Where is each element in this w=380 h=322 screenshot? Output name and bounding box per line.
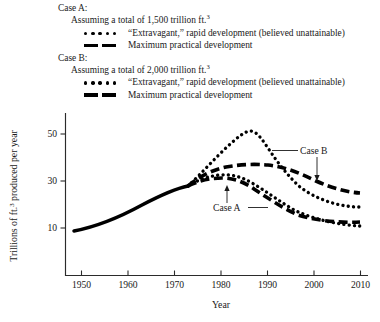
- axis-lines: [66, 113, 369, 276]
- annotation-case-b-arrowhead: [314, 175, 319, 181]
- annotation-case-b-label: Case B: [300, 145, 327, 156]
- x-tick-label-1970: 1970: [165, 279, 184, 290]
- y-tick-label-10: 10: [47, 222, 57, 233]
- chart-plot: 10 30 50 1950 1960 1970 1980 1990 2000 2…: [0, 0, 380, 322]
- x-axis-ticks: [82, 271, 361, 276]
- x-tick-label-2010: 2010: [351, 279, 370, 290]
- x-tick-label-1990: 1990: [258, 279, 277, 290]
- annotation-case-a-arrowhead: [224, 185, 229, 191]
- x-tick-label-1960: 1960: [118, 279, 137, 290]
- curve-case-a-maximum: [188, 178, 360, 222]
- x-tick-label-1950: 1950: [72, 279, 91, 290]
- curve-case-a-extravagant: [188, 175, 360, 226]
- y-axis-title-main: Trillions of ft.: [8, 207, 19, 262]
- curve-historical: [74, 186, 188, 231]
- y-tick-label-50: 50: [47, 128, 57, 139]
- figure-container: Case A: Assuming a total of 1,500 trilli…: [0, 0, 380, 322]
- curve-case-b-maximum: [188, 164, 360, 193]
- x-axis-title: Year: [212, 299, 231, 310]
- x-tick-label-2000: 2000: [304, 279, 323, 290]
- y-axis-ticks: [61, 134, 66, 228]
- y-tick-label-30: 30: [47, 175, 57, 186]
- svg-text:Trillions of ft.3 produced per: Trillions of ft.3 produced per year: [8, 130, 19, 262]
- x-tick-label-1980: 1980: [211, 279, 230, 290]
- y-axis-title-tail: produced per year: [8, 130, 19, 204]
- annotation-case-a-label: Case A: [213, 202, 241, 213]
- y-axis-title: Trillions of ft.3 produced per year: [8, 130, 19, 262]
